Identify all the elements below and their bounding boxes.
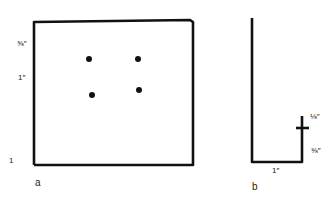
panel-outline: [34, 20, 193, 165]
caption-b: b: [252, 182, 258, 192]
label-top-offset: ⅝″: [17, 40, 27, 48]
hole-markers: [86, 56, 142, 98]
label-flange-lower: ⅜″: [311, 147, 321, 155]
hole-icon: [136, 87, 142, 93]
hole-icon: [89, 92, 95, 98]
diagram-canvas: [0, 0, 329, 198]
label-hole-spacing: 1″: [18, 74, 25, 82]
hole-icon: [135, 56, 141, 62]
caption-a: a: [35, 178, 41, 188]
hole-icon: [86, 56, 92, 62]
label-bottom: 1: [9, 157, 13, 165]
label-flange-top: ⅛″: [310, 113, 320, 121]
channel-profile: [252, 18, 309, 162]
label-base-width: 1″: [272, 167, 279, 175]
